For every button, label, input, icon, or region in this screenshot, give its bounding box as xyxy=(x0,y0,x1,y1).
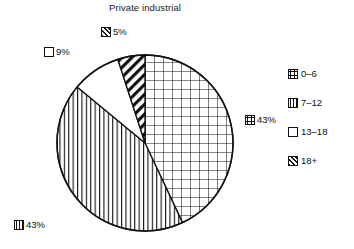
data-label-13-18: 9% xyxy=(44,46,70,57)
data-label-18plus: 5% xyxy=(101,26,127,37)
data-label-13-18-text: 9% xyxy=(56,46,70,57)
swatch-grid-icon xyxy=(245,115,255,125)
legend-item-0-6-label: 0–6 xyxy=(301,68,317,79)
page-title: Private industrial xyxy=(0,2,290,13)
data-label-0-6: 43% xyxy=(245,114,276,125)
legend-item-13-18: 13–18 xyxy=(288,126,352,137)
chart-page: Private industrial xyxy=(0,0,354,249)
swatch-diagonal-hatch-icon xyxy=(101,27,111,37)
legend-item-7-12: 7–12 xyxy=(288,97,352,108)
legend-swatch-grid-icon xyxy=(288,69,298,79)
swatch-blank-icon xyxy=(44,47,54,57)
legend-item-13-18-label: 13–18 xyxy=(301,126,327,137)
legend-item-0-6: 0–6 xyxy=(288,68,352,79)
legend-item-18plus-label: 18+ xyxy=(301,155,317,166)
legend-item-7-12-label: 7–12 xyxy=(301,97,322,108)
legend-swatch-vertical-lines-icon xyxy=(288,98,298,108)
data-label-7-12-text: 43% xyxy=(26,219,45,230)
data-label-18plus-text: 5% xyxy=(113,26,127,37)
chart-legend: 0–6 7–12 13–18 18+ xyxy=(288,68,352,166)
pie-chart xyxy=(55,53,235,233)
legend-swatch-blank-icon xyxy=(288,127,298,137)
legend-item-18plus: 18+ xyxy=(288,155,352,166)
data-label-7-12: 43% xyxy=(14,219,45,230)
data-label-0-6-text: 43% xyxy=(257,114,276,125)
pie-chart-svg xyxy=(55,53,235,233)
legend-swatch-diagonal-hatch-icon xyxy=(288,156,298,166)
swatch-vertical-lines-icon xyxy=(14,220,24,230)
